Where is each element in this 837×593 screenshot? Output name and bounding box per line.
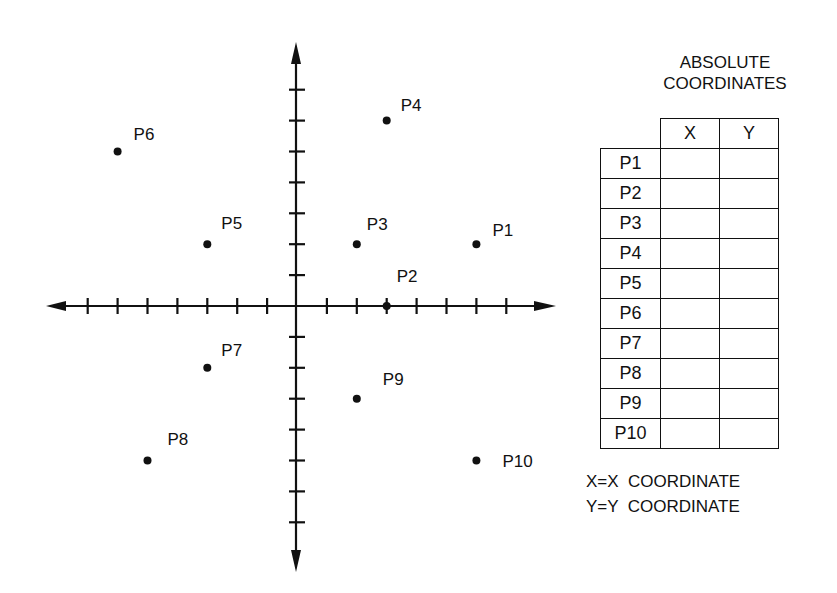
point-p3 (353, 240, 361, 248)
data-points: P1P2P3P4P5P6P7P8P9P10 (114, 96, 533, 471)
row-label: P4 (601, 239, 661, 269)
x-value-cell[interactable] (661, 329, 720, 359)
y-value-cell[interactable] (720, 239, 779, 269)
header-blank-cell (601, 119, 661, 149)
table-row: P9 (601, 389, 779, 419)
y-value-cell[interactable] (720, 149, 779, 179)
point-label: P5 (221, 214, 242, 233)
y-value-cell[interactable] (720, 329, 779, 359)
x-value-cell[interactable] (661, 299, 720, 329)
header-y: Y (720, 119, 779, 149)
row-label: P9 (601, 389, 661, 419)
row-label: P1 (601, 149, 661, 179)
point-p1 (472, 240, 480, 248)
row-label: P8 (601, 359, 661, 389)
table-row: P1 (601, 149, 779, 179)
table-row: P7 (601, 329, 779, 359)
table-row: P8 (601, 359, 779, 389)
point-p9 (353, 395, 361, 403)
row-label: P3 (601, 209, 661, 239)
x-value-cell[interactable] (661, 269, 720, 299)
x-value-cell[interactable] (661, 239, 720, 269)
point-p6 (114, 148, 122, 156)
header-x: X (661, 119, 720, 149)
x-value-cell[interactable] (661, 179, 720, 209)
point-label: P4 (401, 96, 422, 115)
point-p5 (203, 240, 211, 248)
coordinates-table: X Y P1P2P3P4P5P6P7P8P9P10 (600, 118, 779, 449)
y-value-cell[interactable] (720, 179, 779, 209)
row-label: P6 (601, 299, 661, 329)
table-row: P6 (601, 299, 779, 329)
coordinate-plane: P1P2P3P4P5P6P7P8P9P10 (0, 0, 580, 593)
row-label: P5 (601, 269, 661, 299)
point-p8 (144, 457, 152, 465)
point-label: P6 (134, 125, 155, 144)
table-row: P4 (601, 239, 779, 269)
row-label: P10 (601, 419, 661, 449)
y-value-cell[interactable] (720, 299, 779, 329)
point-p2 (383, 302, 391, 310)
table-row: P10 (601, 419, 779, 449)
row-label: P2 (601, 179, 661, 209)
point-label: P10 (502, 452, 532, 471)
x-value-cell[interactable] (661, 359, 720, 389)
x-value-cell[interactable] (661, 389, 720, 419)
point-label: P3 (367, 215, 388, 234)
legend-x: X=X COORDINATE (586, 469, 740, 495)
table-row: P3 (601, 209, 779, 239)
y-value-cell[interactable] (720, 359, 779, 389)
x-value-cell[interactable] (661, 149, 720, 179)
table-title-line2: COORDINATES (640, 73, 810, 94)
y-value-cell[interactable] (720, 419, 779, 449)
x-value-cell[interactable] (661, 419, 720, 449)
table-row: P2 (601, 179, 779, 209)
row-label: P7 (601, 329, 661, 359)
point-p10 (472, 457, 480, 465)
point-p7 (203, 364, 211, 372)
legend-y: Y=Y COORDINATE (586, 494, 740, 520)
point-label: P9 (383, 370, 404, 389)
y-value-cell[interactable] (720, 269, 779, 299)
y-value-cell[interactable] (720, 389, 779, 419)
table-title-line1: ABSOLUTE (640, 52, 810, 73)
point-label: P1 (492, 221, 513, 240)
x-value-cell[interactable] (661, 209, 720, 239)
x-axis (46, 298, 556, 314)
point-label: P7 (221, 341, 242, 360)
point-label: P8 (168, 430, 189, 449)
y-value-cell[interactable] (720, 209, 779, 239)
point-label: P2 (397, 267, 418, 286)
point-p4 (383, 117, 391, 125)
table-row: P5 (601, 269, 779, 299)
